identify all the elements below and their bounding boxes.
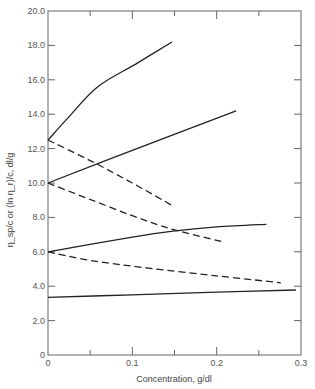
y-tick-label: 12.0 xyxy=(27,144,45,154)
series-line-5 xyxy=(48,224,266,252)
x-tick-label: 0 xyxy=(45,358,50,368)
series-line-2 xyxy=(48,140,172,205)
y-tick-label: 8.0 xyxy=(32,212,45,222)
y-tick-labels: 02.04.06.08.010.012.014.016.018.020.0 xyxy=(27,6,45,360)
x-tick-label: 0.3 xyxy=(295,358,308,368)
axis-ticks xyxy=(48,11,301,355)
y-tick-label: 4.0 xyxy=(32,281,45,291)
x-tick-label: 0.1 xyxy=(126,358,139,368)
y-axis-label: η_sp/c or (ln η_r)/c, dl/g xyxy=(5,153,15,248)
plot-frame xyxy=(48,11,301,355)
y-tick-label: 14.0 xyxy=(27,109,45,119)
y-tick-label: 16.0 xyxy=(27,75,45,85)
viscosity-concentration-chart: 02.04.06.08.010.012.014.016.018.020.0 00… xyxy=(0,0,315,389)
series-line-1 xyxy=(48,42,172,140)
x-axis-label: Concentration, g/dl xyxy=(136,374,212,384)
series-line-4 xyxy=(48,183,222,242)
y-tick-label: 20.0 xyxy=(27,6,45,16)
y-tick-label: 0 xyxy=(40,350,45,360)
plot-border xyxy=(48,11,301,355)
x-tick-label: 0.2 xyxy=(210,358,223,368)
series-line-6 xyxy=(48,252,281,283)
series-line-3 xyxy=(48,111,236,183)
y-tick-label: 10.0 xyxy=(27,178,45,188)
series-line-7 xyxy=(48,290,296,297)
y-tick-label: 6.0 xyxy=(32,247,45,257)
y-tick-label: 18.0 xyxy=(27,40,45,50)
x-tick-labels: 00.10.20.3 xyxy=(45,358,307,368)
data-series xyxy=(48,42,296,297)
y-tick-label: 2.0 xyxy=(32,316,45,326)
